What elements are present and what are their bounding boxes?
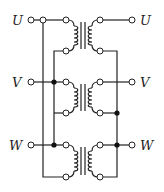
transformer-u [68,20,98,51]
label-w-right: W [140,138,155,153]
label-u-left: U [12,13,24,28]
transformer-diagram: U U V V W W [0,0,164,192]
label-v-right: V [140,75,151,90]
label-u-right: U [140,13,152,28]
transformer-w [68,145,98,177]
label-v-left: V [12,75,23,90]
label-w-left: W [9,138,24,153]
transformer-v [68,82,98,113]
